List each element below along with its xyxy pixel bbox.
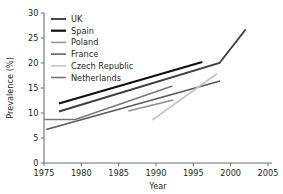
x-tick-label: 1990: [146, 168, 167, 178]
x-tick-label: 2000: [220, 168, 241, 178]
line-chart-figure: 051015202530 197519801985199019952000200…: [0, 0, 283, 194]
x-axis-tick-labels: 1975198019851990199520002005: [34, 168, 279, 178]
legend-label-czech-republic: Czech Republic: [71, 61, 133, 71]
chart-legend: UKSpainPolandFranceCzech RepublicNetherl…: [51, 14, 133, 83]
y-tick-label: 0: [33, 158, 38, 168]
y-tick-label: 25: [28, 33, 38, 43]
x-tick-label: 1975: [34, 168, 55, 178]
y-tick-label: 20: [28, 58, 38, 68]
legend-label-spain: Spain: [71, 26, 94, 36]
x-tick-label: 2005: [258, 168, 279, 178]
chart-canvas: 051015202530 197519801985199019952000200…: [0, 0, 283, 194]
y-tick-label: 30: [28, 8, 38, 18]
y-tick-label: 5: [33, 133, 38, 143]
y-tick-label: 10: [28, 108, 38, 118]
legend-label-uk: UK: [71, 14, 83, 24]
legend-label-netherlands: Netherlands: [71, 73, 121, 83]
x-axis-title: Year: [148, 181, 167, 191]
x-tick-label: 1995: [183, 168, 204, 178]
y-axis-tick-labels: 051015202530: [28, 8, 38, 168]
y-axis-title: Prevalence (%): [5, 57, 15, 119]
legend-label-france: France: [71, 49, 98, 59]
legend-label-poland: Poland: [71, 37, 98, 47]
x-tick-label: 1980: [71, 168, 92, 178]
x-tick-label: 1985: [108, 168, 129, 178]
y-tick-label: 15: [28, 83, 38, 93]
